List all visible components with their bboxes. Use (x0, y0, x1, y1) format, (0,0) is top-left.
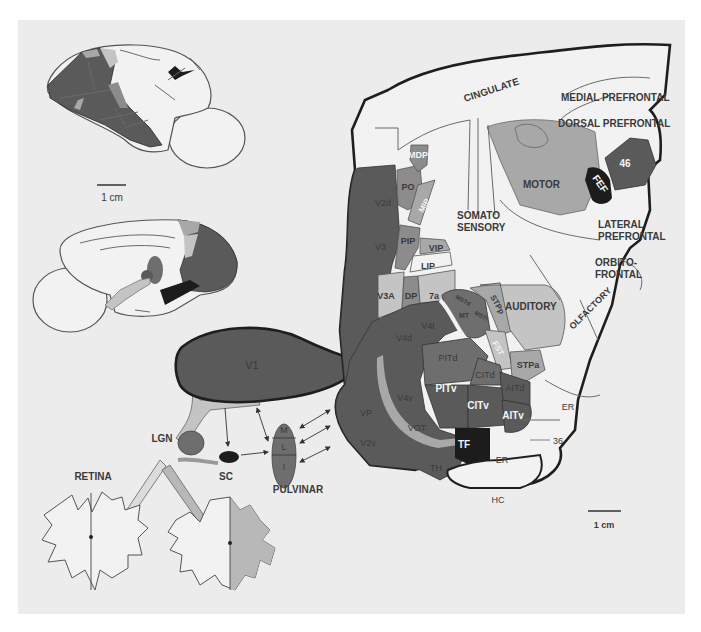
arrow-sc-to-pulvinar (241, 452, 268, 455)
label-vip: VIP (429, 243, 444, 253)
label-er: ER (496, 455, 509, 465)
retino-collicular-tract (178, 459, 218, 463)
retina-left-fovea (89, 535, 93, 539)
label-medial-prefrontal: MEDIAL PREFRONTAL (561, 92, 670, 103)
label-lateral-prefrontal: PREFRONTAL (598, 231, 666, 242)
label-v4t: V4t (421, 321, 435, 331)
pulvinar-division-l: L (281, 442, 286, 452)
label-v3a: V3A (377, 291, 395, 301)
label-auditory: AUDITORY (505, 301, 557, 312)
label-th: TH (430, 463, 442, 473)
retina-label: RETINA (74, 471, 111, 482)
label-aitv: AITv (502, 410, 524, 421)
label-orbito: ORBITO- (595, 257, 637, 268)
pulvinar-label: PULVINAR (273, 484, 324, 495)
medial-brain-view (33, 220, 237, 332)
label-lip: LIP (421, 261, 435, 271)
label-v4v: V4v (397, 393, 413, 403)
label-mdp: MDP (408, 150, 428, 160)
label-er-outer: ER (562, 402, 575, 412)
arrow-pulvinar-cortex-2 (300, 426, 330, 443)
label-dp: DP (405, 291, 418, 301)
label-hc: HC (492, 495, 505, 505)
arrow-pulvinar-cortex-1 (300, 410, 330, 428)
label-sensory: SENSORY (457, 222, 506, 233)
label-vot: VOT (408, 423, 427, 433)
lgn-nucleus (178, 431, 204, 455)
sc-label: SC (219, 471, 233, 482)
pulvinar-division-m: M (280, 425, 288, 435)
label-mt: MT (459, 312, 470, 319)
label-motor: MOTOR (523, 179, 561, 190)
label-lateral: LATERAL (598, 219, 644, 230)
label-tf: TF (458, 439, 470, 450)
arrow-v1-to-sc (225, 408, 228, 446)
label-pitd: PITd (438, 353, 457, 363)
subcortical-pathway: V1 LGN SC M L I PULVINAR RETINA (42, 328, 363, 590)
lgn-label: LGN (151, 433, 172, 444)
label-46: 46 (619, 158, 631, 169)
label-dorsal-prefrontal: DORSAL PREFRONTAL (558, 118, 670, 129)
label-pitv: PITv (435, 383, 457, 394)
arrow-v1-pulvinar (257, 408, 268, 441)
label-v2v: V2v (360, 438, 376, 448)
label-stpa: STPa (517, 360, 541, 370)
label-po: PO (401, 182, 414, 192)
label-pip: PIP (401, 236, 416, 246)
arrow-pulvinar-cortex-3 (300, 447, 330, 462)
label-citv: CITv (467, 400, 489, 411)
label-aitd: AITd (505, 383, 524, 393)
pulvinar-division-i: I (283, 462, 286, 472)
label-v3: V3 (375, 242, 386, 252)
label-vp: VP (360, 408, 372, 418)
label-v2d: V2d (375, 198, 391, 208)
lateral-brain-view: 1 cm (47, 45, 245, 203)
flat-cortical-map: CINGULATE MEDIAL PREFRONTAL DORSAL PREFR… (336, 44, 671, 530)
label-citd: CITd (475, 370, 495, 380)
label-frontal: FRONTAL (595, 269, 642, 280)
label-somato: SOMATO (457, 210, 500, 221)
v1-region (176, 328, 363, 402)
lateral-scale-label: 1 cm (101, 192, 123, 203)
flatmap-scale-label: 1 cm (594, 520, 615, 530)
sc-nucleus (219, 451, 239, 463)
cortical-diagram: 1 cm V1 LGN SC M L I PULVIN (0, 0, 701, 632)
label-v4d: V4d (396, 333, 412, 343)
label-36: 36 (553, 436, 563, 446)
v1-label: V1 (245, 359, 258, 371)
retina-right-fovea (228, 541, 232, 545)
label-7a: 7a (429, 291, 440, 301)
